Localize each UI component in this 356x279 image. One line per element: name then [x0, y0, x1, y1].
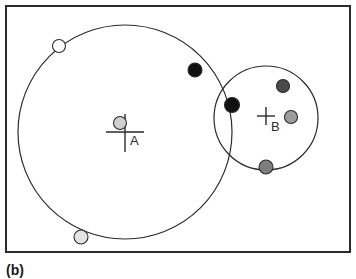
data-point-lightgray-centroid-a — [114, 117, 127, 130]
cluster-diagram: A B (b) — [0, 0, 356, 279]
data-point-white-top-left — [53, 40, 66, 53]
figure-caption: (b) — [6, 262, 24, 278]
data-point-black-upper-right-a — [188, 63, 202, 77]
centroid-a-label: A — [130, 133, 139, 148]
data-point-black-overlap — [225, 98, 240, 113]
centroid-b-label: B — [271, 119, 280, 134]
figure-container: A B (b) — [0, 0, 356, 279]
data-point-gray-b-bottom — [259, 160, 273, 174]
data-point-darkgray-b-top — [277, 80, 290, 93]
data-point-mediumgray-b-right — [285, 111, 298, 124]
data-point-verylight-bottom-left — [74, 230, 88, 244]
